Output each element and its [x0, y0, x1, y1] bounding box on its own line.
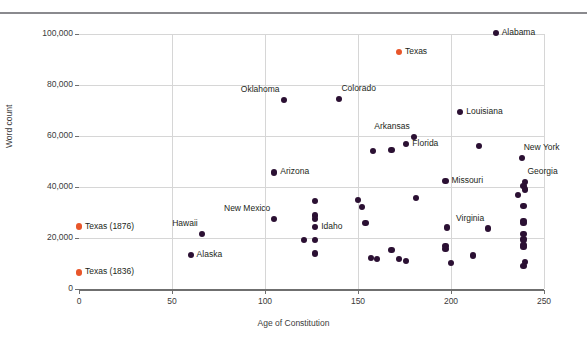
scatter-plot: 020,00040,00060,00080,000100,00005010015… — [0, 0, 587, 344]
y-axis-title: Word count — [4, 105, 14, 148]
data-point-alaska[interactable] — [188, 252, 194, 258]
data-point[interactable] — [413, 195, 419, 201]
data-point[interactable] — [520, 244, 526, 250]
point-label-oklahoma: Oklahoma — [241, 84, 280, 94]
point-label-alabama: Alabama — [502, 27, 536, 37]
data-point-texas-1876[interactable] — [76, 223, 82, 229]
data-point[interactable] — [388, 247, 394, 253]
data-point-florida[interactable] — [403, 141, 409, 147]
data-point-arizona[interactable] — [271, 169, 277, 175]
data-point[interactable] — [448, 260, 454, 266]
point-label-louisiana: Louisiana — [466, 106, 502, 116]
x-tick-label: 0 — [59, 296, 99, 306]
y-tick-mark — [75, 187, 79, 188]
x-tick-mark — [79, 290, 80, 294]
data-point-colorado[interactable] — [336, 96, 342, 102]
data-point[interactable] — [520, 263, 526, 269]
data-point[interactable] — [476, 143, 482, 149]
point-label-new-york: New York — [524, 142, 560, 152]
point-label-hawaii: Hawaii — [172, 218, 198, 228]
x-tick-mark — [358, 290, 359, 294]
data-point[interactable] — [312, 237, 318, 243]
data-point-alabama[interactable] — [493, 30, 499, 36]
data-point[interactable] — [312, 198, 318, 204]
point-label-missouri: Missouri — [451, 175, 483, 185]
data-point[interactable] — [362, 220, 368, 226]
point-label-colorado: Colorado — [341, 83, 376, 93]
point-label-florida: Florida — [412, 138, 438, 148]
y-tick-mark — [75, 85, 79, 86]
data-point-oklahoma[interactable] — [281, 97, 287, 103]
data-point[interactable] — [359, 204, 365, 210]
data-point[interactable] — [388, 147, 394, 153]
data-point-texas-1836[interactable] — [76, 269, 82, 275]
point-label-arkansas: Arkansas — [374, 121, 409, 131]
gridline-horizontal — [79, 289, 544, 291]
x-tick-label: 200 — [431, 296, 471, 306]
x-tick-label: 50 — [152, 296, 192, 306]
gridline-vertical — [451, 34, 452, 289]
y-tick-mark — [75, 34, 79, 35]
gridline-vertical — [544, 34, 545, 289]
point-label-texas-1876: Texas (1876) — [85, 221, 134, 231]
gridline-vertical — [358, 34, 359, 289]
x-tick-label: 100 — [245, 296, 285, 306]
x-tick-mark — [265, 290, 266, 294]
x-tick-mark — [172, 290, 173, 294]
y-tick-label: 60,000 — [47, 130, 73, 140]
gridline-vertical — [172, 34, 173, 289]
x-tick-label: 250 — [524, 296, 564, 306]
y-tick-label: 80,000 — [47, 79, 73, 89]
y-tick-label: 0 — [68, 283, 73, 293]
point-label-idaho: Idaho — [321, 221, 342, 231]
data-point-hawaii[interactable] — [199, 231, 205, 237]
point-label-georgia: Georgia — [527, 166, 557, 176]
y-tick-mark — [75, 136, 79, 137]
data-point[interactable] — [403, 258, 409, 264]
point-label-alaska: Alaska — [197, 249, 223, 259]
data-point[interactable] — [444, 224, 450, 230]
data-point[interactable] — [396, 256, 402, 262]
x-tick-mark — [451, 290, 452, 294]
data-point[interactable] — [370, 148, 376, 154]
data-point-missouri[interactable] — [442, 178, 448, 184]
data-point-idaho[interactable] — [312, 224, 318, 230]
y-tick-mark — [75, 238, 79, 239]
point-label-texas: Texas — [405, 46, 427, 56]
point-label-arizona: Arizona — [280, 166, 309, 176]
data-point[interactable] — [522, 186, 528, 192]
y-tick-label: 40,000 — [47, 181, 73, 191]
data-point[interactable] — [520, 203, 526, 209]
data-point-new-york[interactable] — [519, 155, 525, 161]
x-tick-label: 150 — [338, 296, 378, 306]
data-point-louisiana[interactable] — [457, 109, 463, 115]
data-point[interactable] — [312, 216, 318, 222]
gridline-horizontal — [79, 34, 544, 35]
y-tick-label: 20,000 — [47, 232, 73, 242]
gridline-horizontal — [79, 85, 544, 86]
point-label-virginia: Virginia — [456, 213, 484, 223]
point-label-texas-1836: Texas (1836) — [85, 266, 134, 276]
chart-page: 020,00040,00060,00080,000100,00005010015… — [0, 0, 587, 344]
data-point-new-mexico[interactable] — [271, 216, 277, 222]
y-tick-label: 100,000 — [42, 28, 73, 38]
data-point[interactable] — [374, 256, 380, 262]
data-point[interactable] — [312, 250, 318, 256]
x-tick-mark — [544, 290, 545, 294]
data-point-texas[interactable] — [396, 49, 402, 55]
gridline-horizontal — [79, 136, 544, 137]
x-axis-title: Age of Constitution — [0, 318, 587, 328]
data-point[interactable] — [442, 246, 448, 252]
point-label-new-mexico: New Mexico — [224, 203, 270, 213]
data-point[interactable] — [355, 197, 361, 203]
data-point[interactable] — [520, 220, 526, 226]
gridline-horizontal — [79, 187, 544, 188]
gridline-vertical — [265, 34, 266, 289]
data-point[interactable] — [515, 192, 521, 198]
data-point[interactable] — [470, 252, 476, 258]
data-point-virginia[interactable] — [485, 225, 491, 231]
data-point[interactable] — [301, 237, 307, 243]
